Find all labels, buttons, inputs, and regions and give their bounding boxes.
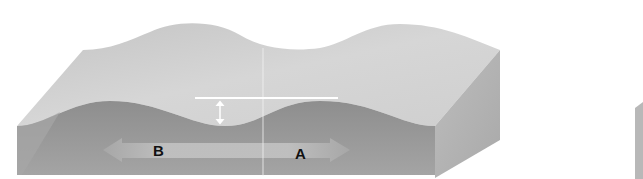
wave-block-illustration bbox=[0, 0, 643, 179]
label-a: A bbox=[295, 146, 306, 161]
wave-diagram: B A bbox=[0, 0, 643, 179]
adjacent-block-edge bbox=[635, 102, 643, 179]
label-b: B bbox=[153, 143, 164, 158]
